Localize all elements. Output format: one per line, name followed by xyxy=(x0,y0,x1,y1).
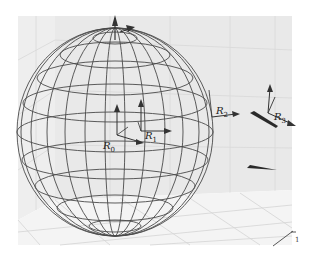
frame-r3-label: R3 xyxy=(274,112,286,125)
frame-r3-letter: R xyxy=(274,111,282,122)
frame-r2-letter: R xyxy=(216,105,224,116)
frame-r2-label: R2 xyxy=(216,106,228,119)
frame-r1-sub: 1 xyxy=(153,136,157,144)
frame-r0-letter: R xyxy=(103,140,111,151)
frame-r2-sub: 2 xyxy=(224,111,228,119)
frame-r1-letter: R xyxy=(145,130,153,141)
frame-r3-sub: 3 xyxy=(282,117,286,125)
axis-tick-label: 1 xyxy=(295,236,299,244)
frame-r1-label: R1 xyxy=(145,131,157,144)
frame-r0-sub: 0 xyxy=(111,146,115,154)
frame-r0-label: R0 xyxy=(103,141,115,154)
